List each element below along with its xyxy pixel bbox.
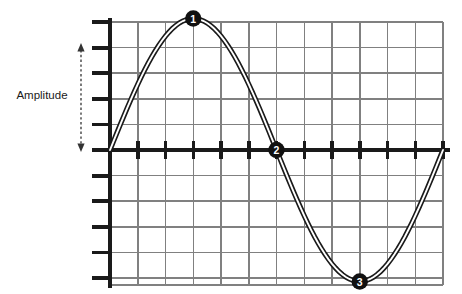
sine-wave-chart: 1 2 3 bbox=[0, 0, 462, 294]
marker-3[interactable]: 3 bbox=[352, 273, 368, 289]
marker-1-label: 1 bbox=[190, 13, 196, 25]
amplitude-arrow-head-top bbox=[77, 43, 84, 52]
amplitude-label: Amplitude bbox=[8, 88, 76, 102]
marker-1[interactable]: 1 bbox=[185, 10, 201, 26]
marker-2-label: 2 bbox=[274, 144, 280, 156]
amplitude-arrow bbox=[77, 43, 84, 152]
amplitude-arrow-head-bottom bbox=[77, 144, 84, 153]
waveform-figure: 1 2 3 Amplitude bbox=[0, 0, 462, 294]
marker-3-label: 3 bbox=[357, 276, 363, 288]
marker-2[interactable]: 2 bbox=[268, 142, 284, 158]
